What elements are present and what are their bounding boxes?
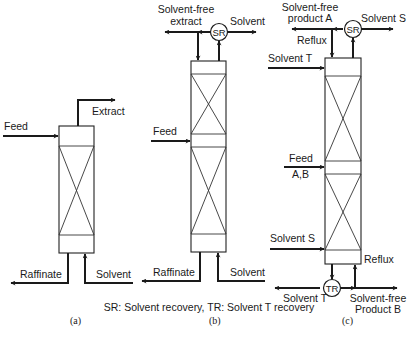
sr-label: SR — [212, 27, 225, 38]
solvent-s-top-label: Solvent S — [361, 12, 406, 24]
panel-b: SR Solvent-free extract Solvent Feed Raf… — [142, 3, 265, 327]
feed-label: Feed — [153, 125, 177, 137]
panel-caption-b: (b) — [209, 315, 221, 327]
solvent-label: Solvent — [96, 268, 131, 280]
feed-label: Feed — [289, 152, 313, 164]
legend-text: SR: Solvent recovery, TR: Solvent T reco… — [104, 301, 315, 313]
solvent-free-extract-label-1: Solvent-free — [158, 3, 215, 15]
extract-label: Extract — [92, 105, 125, 117]
feed-label: Feed — [4, 120, 28, 132]
panel-caption-c: (c) — [342, 315, 353, 327]
solvent-t-top-label: Solvent T — [268, 52, 313, 64]
column-a — [59, 126, 94, 253]
panel-c: SR Solvent-free product A Solvent S Refl… — [268, 1, 406, 327]
raffinate-label: Raffinate — [153, 266, 195, 278]
feed-components-label: A,B — [292, 168, 309, 180]
panel-a: Feed Extract Raffinate Solvent (a) — [3, 100, 133, 327]
tr-label: TR — [326, 283, 339, 294]
sr-label: SR — [346, 24, 359, 35]
solvent-bottom-label: Solvent — [230, 266, 265, 278]
reflux-top-label: Reflux — [297, 34, 328, 46]
solvent-s-label: Solvent S — [270, 232, 315, 244]
solvent-top-label: Solvent — [230, 15, 265, 27]
column-b — [191, 61, 226, 252]
solvent-free-extract-label-2: extract — [170, 15, 202, 27]
product-b-label-2: Product B — [355, 303, 401, 315]
panel-caption-a: (a) — [70, 315, 81, 327]
product-a-label-2: product A — [288, 12, 332, 24]
raffinate-label: Raffinate — [20, 268, 62, 280]
column-c — [325, 58, 361, 264]
reflux-bottom-label: Reflux — [364, 253, 395, 265]
extraction-flowsheets-diagram: Feed Extract Raffinate Solvent (a) — [0, 0, 413, 343]
